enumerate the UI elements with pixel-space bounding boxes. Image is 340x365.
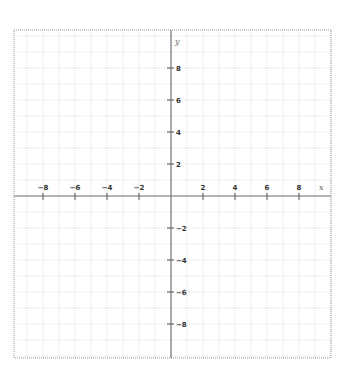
y-axis-label: y [174,37,180,46]
y-tick-label: −6 [176,289,187,297]
x-tick-label: 2 [201,184,206,192]
coordinate-plane: −8−6−4−22468 8642−2−4−6−8 x y [0,0,340,365]
y-tick-label: 6 [176,97,181,105]
grid-lines [14,30,331,358]
y-tick-label: 2 [176,161,181,169]
y-tick-label: −2 [176,225,187,233]
y-tick-label: 8 [176,65,181,73]
x-axis-label: x [319,183,324,192]
x-tick-label: 8 [297,184,302,192]
x-tick-labels: −8−6−4−22468 [38,184,302,192]
x-tick-label: −2 [134,184,145,192]
y-tick-label: −4 [176,257,187,265]
y-tick-label: 4 [176,129,181,137]
x-tick-label: −8 [38,184,49,192]
x-tick-label: 6 [265,184,270,192]
x-tick-label: −6 [70,184,81,192]
x-tick-label: 4 [233,184,238,192]
y-tick-label: −8 [176,321,187,329]
x-tick-label: −4 [102,184,113,192]
plane-border [14,30,331,358]
